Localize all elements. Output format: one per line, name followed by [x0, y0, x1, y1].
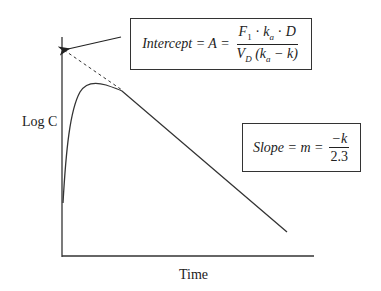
x-axis-label: Time [179, 267, 208, 283]
slope-formula-box: Slope = m = −k 2.3 [242, 123, 361, 172]
intercept-denominator: VD (ka − k) [235, 45, 300, 65]
slope-denominator: 2.3 [329, 148, 351, 164]
slope-lhs: Slope = m = [253, 140, 324, 156]
intercept-arrow [68, 37, 121, 49]
slope-fraction: −k 2.3 [329, 131, 351, 165]
intercept-numerator: F1 · ka · D [237, 24, 298, 45]
y-axis-label: Log C [22, 114, 57, 130]
slope-numerator: −k [329, 131, 349, 148]
intercept-formula-box: Intercept = A = F1 · ka · D VD (ka − k) [130, 18, 312, 70]
intercept-lhs: Intercept = A = [142, 36, 229, 52]
intercept-fraction: F1 · ka · D VD (ka − k) [235, 24, 300, 64]
